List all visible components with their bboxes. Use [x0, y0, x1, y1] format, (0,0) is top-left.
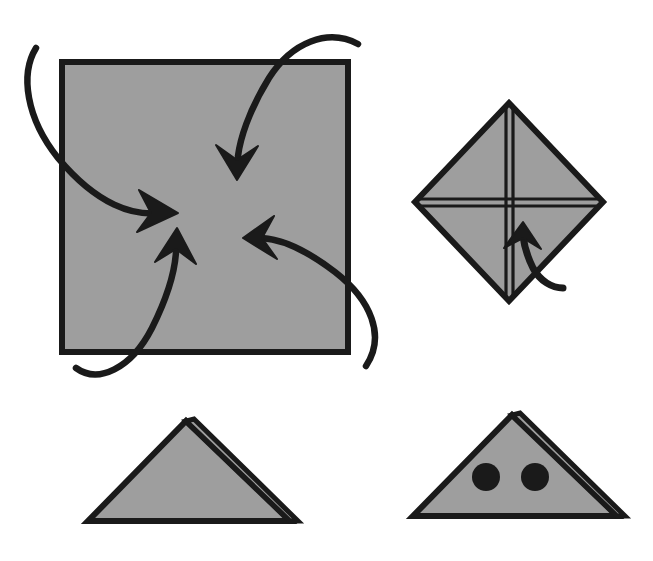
eye-dot-right: [521, 463, 549, 491]
eye-dot-left: [472, 463, 500, 491]
origami-diagram: [0, 0, 653, 561]
square-paper: [62, 62, 348, 352]
panel-square-corners-in: [27, 37, 374, 374]
origami-illustration: [0, 0, 653, 561]
